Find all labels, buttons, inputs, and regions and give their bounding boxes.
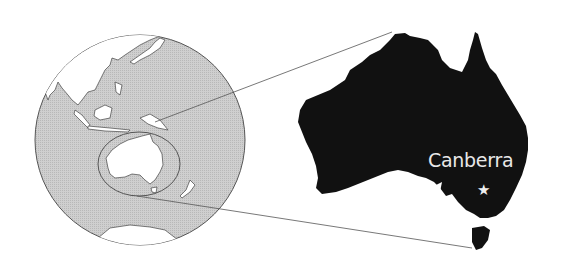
map-canvas [0, 0, 562, 274]
tasmania-island [151, 187, 157, 193]
tasmania-inset [472, 226, 490, 250]
australia-inset [298, 32, 528, 250]
city-label-canberra: Canberra [428, 149, 513, 171]
globe [35, 32, 245, 250]
star-icon: ★ [477, 183, 490, 198]
